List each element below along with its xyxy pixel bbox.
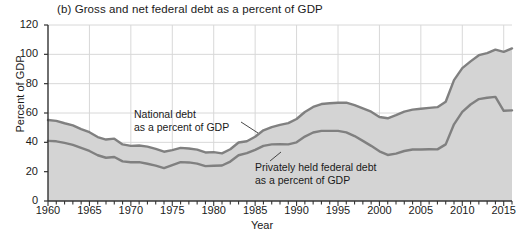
annotation-national-debt: National debt as a percent of GDP <box>134 108 229 133</box>
x-tick-label: 2015 <box>479 204 524 216</box>
plot-area <box>0 0 524 236</box>
y-tick-label: 40 <box>4 135 38 147</box>
annotation-private-line2: as a percent of GDP <box>255 174 376 187</box>
y-tick-label: 100 <box>4 47 38 59</box>
annotation-national-line2: as a percent of GDP <box>134 121 229 134</box>
chart-panel: (b) Gross and net federal debt as a perc… <box>0 0 524 236</box>
annotation-private-debt: Privately held federal debt as a percent… <box>255 161 376 186</box>
annotation-private-line1: Privately held federal debt <box>255 161 376 174</box>
y-tick-label: 80 <box>4 77 38 89</box>
y-tick-label: 60 <box>4 106 38 118</box>
annotation-national-line1: National debt <box>134 108 229 121</box>
y-tick-label: 20 <box>4 165 38 177</box>
y-tick-label: 120 <box>4 18 38 30</box>
